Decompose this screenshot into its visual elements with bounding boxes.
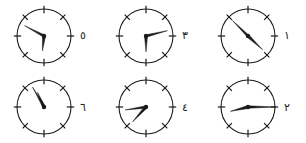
clock-face-4 (13, 76, 75, 138)
clock-item-6: ٢ (217, 76, 293, 138)
clock-hub (42, 33, 46, 37)
clock-grid: ٥ ٣ ١ ٦ ٤ (0, 0, 306, 143)
clock-hub (144, 33, 148, 37)
clock-hub (144, 105, 148, 109)
clock-face-1 (13, 5, 75, 67)
clock-cell-4: ٦ (0, 71, 102, 143)
clock-item-4: ٦ (13, 76, 89, 138)
clock-cell-1: ٥ (0, 0, 102, 71)
clock-hub (246, 33, 250, 37)
clock-label-4: ٦ (77, 102, 89, 113)
clock-label-1: ٥ (77, 30, 89, 41)
clock-cell-5: ٤ (102, 71, 204, 143)
clock-label-5: ٤ (179, 102, 191, 113)
clock-label-2: ٣ (179, 30, 191, 41)
clock-face-3 (217, 5, 279, 67)
clock-cell-6: ٢ (204, 71, 306, 143)
clock-face-6 (217, 76, 279, 138)
clock-label-3: ١ (281, 30, 293, 41)
clock-item-5: ٤ (115, 76, 191, 138)
clock-label-6: ٢ (281, 102, 293, 113)
clock-item-2: ٣ (115, 5, 191, 67)
clock-face-2 (115, 5, 177, 67)
clock-item-3: ١ (217, 5, 293, 67)
clock-cell-3: ١ (204, 0, 306, 71)
clock-hub (42, 105, 46, 109)
clock-cell-2: ٣ (102, 0, 204, 71)
clock-item-1: ٥ (13, 5, 89, 67)
clock-hub (246, 105, 250, 109)
clock-worksheet: ٥ ٣ ١ ٦ ٤ (0, 0, 306, 143)
clock-face-5 (115, 76, 177, 138)
minute-hand (247, 106, 276, 108)
